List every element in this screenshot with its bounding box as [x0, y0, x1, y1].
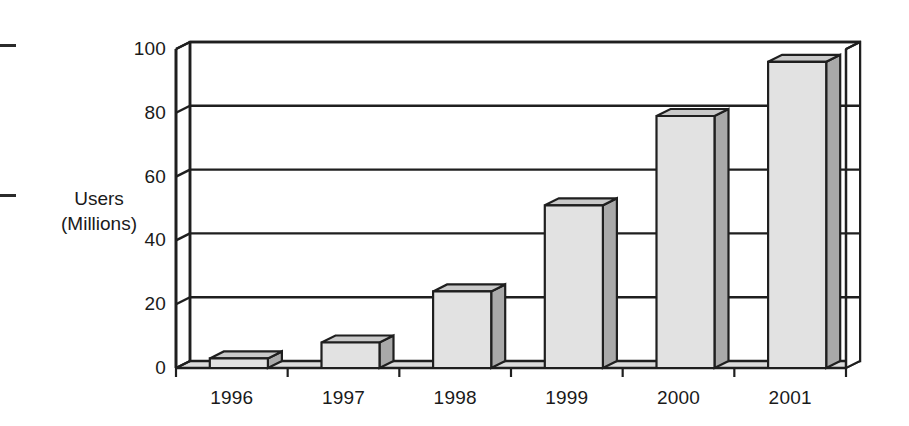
chart-right-wall	[846, 42, 860, 368]
y-axis-tick-80	[176, 106, 190, 113]
bar-front-face-1997	[322, 343, 380, 369]
bar-front-face-1996	[210, 358, 268, 368]
bar-front-face-1998	[433, 291, 491, 368]
bar-side-face-1999	[603, 198, 617, 368]
bar-front-face-1999	[545, 205, 603, 368]
bar-side-face-2000	[715, 109, 729, 368]
x-axis-tick-label: 1998	[410, 388, 500, 407]
y-axis-tick-label: 0	[102, 358, 166, 377]
y-axis-tick-label: 20	[102, 294, 166, 313]
chart-back-wall	[190, 42, 860, 361]
y-axis-title-line-2: (Millions)	[38, 211, 160, 236]
x-axis-tick-label: 2000	[634, 388, 724, 407]
y-axis-title-line-1: Users	[38, 186, 160, 211]
bar-chart: 100 80 60 40 20 0 1996 1997 1998 1999 20…	[0, 0, 909, 426]
x-axis-tick-label: 1996	[187, 388, 277, 407]
bar-side-face-2001	[826, 55, 840, 368]
y-axis-tick-label: 60	[102, 167, 166, 186]
y-axis-tick-20	[176, 297, 190, 304]
y-axis-tick-label: 80	[102, 103, 166, 122]
x-axis-tick-label: 1999	[522, 388, 612, 407]
y-axis-tick-60	[176, 170, 190, 177]
bar-front-face-2001	[768, 62, 826, 368]
bar-front-face-2000	[657, 116, 715, 368]
x-axis-tick-label: 1997	[299, 388, 389, 407]
y-axis-title: Users (Millions)	[38, 186, 160, 236]
bar-side-face-1998	[491, 284, 505, 368]
top-left-diagonal-edge	[176, 42, 190, 49]
y-axis-tick-label: 100	[102, 39, 166, 58]
y-axis-tick-40	[176, 233, 190, 240]
x-axis-tick-label: 2001	[745, 388, 835, 407]
